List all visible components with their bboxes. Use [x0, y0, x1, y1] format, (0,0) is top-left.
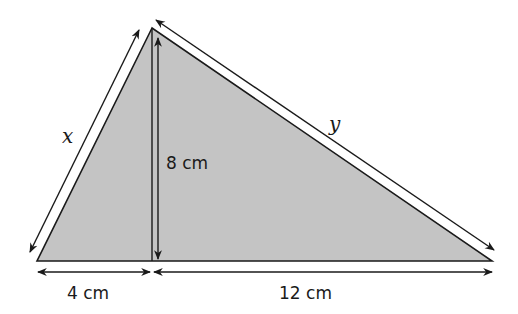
label-side-x: x [62, 124, 73, 148]
label-altitude: 8 cm [166, 153, 208, 173]
label-base-left: 4 cm [67, 283, 109, 303]
triangle-diagram: x y 8 cm 4 cm 12 cm [0, 0, 518, 314]
label-side-y: y [328, 112, 341, 136]
label-base-right: 12 cm [279, 283, 332, 303]
triangle-shape [37, 28, 492, 261]
